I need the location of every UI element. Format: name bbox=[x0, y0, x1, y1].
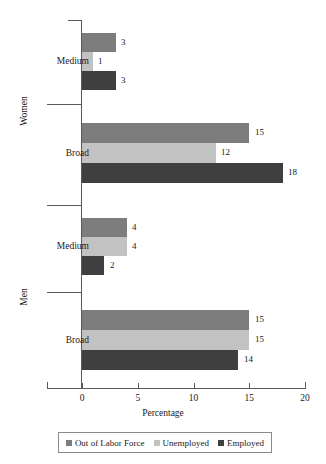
category-label-men-medium: Medium bbox=[29, 241, 89, 251]
bar-value-women-medium-employed: 3 bbox=[121, 76, 126, 85]
x-tick-0 bbox=[82, 383, 83, 389]
legend-label-out-of-labor-force: Out of Labor Force bbox=[75, 438, 145, 448]
panel-separator-women-men bbox=[47, 205, 82, 206]
x-tick-20 bbox=[305, 383, 306, 389]
legend: Out of Labor Force Unemployed Employed bbox=[58, 432, 272, 453]
legend-swatch-icon-out-of-labor-force bbox=[66, 440, 72, 446]
bar-women-medium-employed bbox=[82, 71, 116, 90]
x-tick-5 bbox=[138, 383, 139, 389]
bar-value-women-broad-employed: 18 bbox=[288, 168, 297, 177]
legend-swatch-icon-unemployed bbox=[154, 440, 160, 446]
x-tick-label-15: 15 bbox=[234, 393, 264, 404]
legend-label-employed: Employed bbox=[227, 438, 264, 448]
group-separator-men bbox=[47, 292, 82, 293]
panel-label-women: Women bbox=[19, 81, 29, 141]
legend-item-unemployed[interactable]: Unemployed bbox=[154, 438, 210, 448]
bar-value-men-broad-unemployed: 15 bbox=[255, 335, 264, 344]
category-label-women-medium: Medium bbox=[29, 56, 89, 66]
bar-value-women-broad-out-of-labor-force: 15 bbox=[255, 128, 264, 137]
bar-value-men-broad-employed: 14 bbox=[244, 355, 253, 364]
bar-value-women-medium-unemployed: 1 bbox=[98, 57, 103, 66]
legend-item-out-of-labor-force[interactable]: Out of Labor Force bbox=[66, 438, 145, 448]
bar-value-men-medium-employed: 2 bbox=[110, 261, 115, 270]
x-tick-15 bbox=[249, 383, 250, 389]
legend-swatch-icon-employed bbox=[218, 440, 224, 446]
bar-value-men-medium-unemployed: 4 bbox=[132, 242, 137, 251]
bar-women-broad-out-of-labor-force bbox=[82, 123, 249, 143]
x-tick-label-10: 10 bbox=[179, 393, 209, 404]
x-tick-label-5: 5 bbox=[123, 393, 153, 404]
panel-label-men: Men bbox=[19, 267, 29, 327]
x-axis-title: Percentage bbox=[0, 408, 326, 419]
x-axis-left-endcap bbox=[47, 382, 48, 389]
y-axis-top-cap bbox=[68, 20, 82, 21]
x-tick-10 bbox=[194, 383, 195, 389]
bar-value-men-broad-out-of-labor-force: 15 bbox=[255, 315, 264, 324]
category-label-women-broad: Broad bbox=[29, 148, 89, 158]
bar-men-broad-unemployed bbox=[82, 330, 249, 350]
bar-value-women-broad-unemployed: 12 bbox=[221, 148, 230, 157]
bar-women-broad-employed bbox=[82, 163, 283, 183]
bar-value-men-medium-out-of-labor-force: 4 bbox=[132, 223, 137, 232]
bar-men-medium-employed bbox=[82, 256, 104, 275]
bar-women-medium-out-of-labor-force bbox=[82, 33, 116, 52]
bar-value-women-medium-out-of-labor-force: 3 bbox=[121, 38, 126, 47]
x-tick-label-20: 20 bbox=[290, 393, 320, 404]
bar-men-broad-employed bbox=[82, 350, 238, 370]
bar-men-broad-out-of-labor-force bbox=[82, 310, 249, 330]
legend-item-employed[interactable]: Employed bbox=[218, 438, 264, 448]
x-tick-label-0: 0 bbox=[67, 393, 97, 404]
legend-label-unemployed: Unemployed bbox=[163, 438, 210, 448]
bar-men-medium-out-of-labor-force bbox=[82, 218, 127, 237]
bar-chart: 3 1 3 Medium 15 12 18 Broad 4 4 2 Medium… bbox=[0, 0, 326, 464]
plot-area: 3 1 3 Medium 15 12 18 Broad 4 4 2 Medium… bbox=[0, 0, 326, 464]
category-label-men-broad: Broad bbox=[29, 335, 89, 345]
group-separator-women bbox=[47, 104, 82, 105]
x-axis-line bbox=[47, 388, 306, 389]
bar-women-broad-unemployed bbox=[82, 143, 216, 163]
